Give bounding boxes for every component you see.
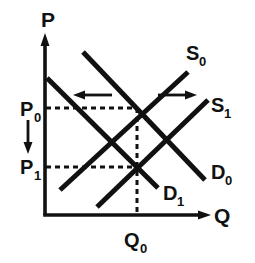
quantity-level-q0-subscript: 0 (140, 241, 147, 256)
price-level-p1-label: P (20, 156, 33, 178)
price-level-p1-subscript: 1 (34, 168, 41, 183)
price-level-p0-subscript: 0 (34, 110, 41, 125)
supply-curve-s1 (97, 100, 208, 207)
supply-curve-s0-subscript: 0 (199, 54, 206, 69)
demand-curve-d0-subscript: 0 (225, 173, 232, 188)
curves-group (47, 52, 208, 207)
price-fall-down-arrowhead-icon (24, 142, 33, 154)
supply-shift-right-arrowhead-icon (185, 91, 197, 100)
price-axis-arrowhead-icon (41, 33, 50, 46)
price-axis-label: P (41, 8, 55, 31)
demand-curve-d1-label: D (163, 182, 177, 204)
supply-demand-diagram: P Q P 0 P 1 Q 0 S 0 S 1 D 0 D 1 (0, 0, 255, 263)
quantity-axis-label: Q (214, 204, 230, 227)
price-level-p0-label: P (20, 98, 33, 120)
supply-curve-s1-subscript: 1 (224, 106, 231, 121)
quantity-axis-arrowhead-icon (198, 211, 211, 220)
supply-curve-s1-label: S (211, 94, 224, 116)
quantity-level-q0-label: Q (124, 229, 140, 251)
supply-curve-s0 (60, 72, 188, 190)
supply-curve-s0-label: S (186, 42, 199, 64)
diagram-canvas: P Q P 0 P 1 Q 0 S 0 S 1 D 0 D 1 (0, 0, 255, 263)
demand-shift-left-arrowhead-icon (73, 91, 85, 100)
demand-curve-d0-label: D (211, 161, 225, 183)
demand-curve-d1-subscript: 1 (177, 194, 184, 209)
